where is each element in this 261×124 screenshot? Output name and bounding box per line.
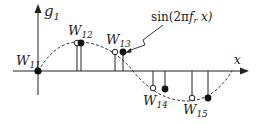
- point-w13: [112, 49, 126, 56]
- x-axis-label: x: [234, 53, 241, 67]
- label-w15: W15: [183, 102, 208, 119]
- label-w11: W11: [16, 53, 41, 70]
- y-axis: [35, 4, 42, 95]
- label-w12: W12: [68, 23, 93, 40]
- point-w12: [74, 40, 84, 47]
- y-axis-label: g1: [44, 2, 60, 22]
- y-axis-arrow-icon: [35, 4, 42, 13]
- point-w14: [150, 85, 168, 92]
- label-w13: W13: [106, 32, 131, 49]
- point-w15: [189, 95, 211, 102]
- sine-sampling-diagram: g1 x sin(2πfr x) W11 W12 W13 W14 W15: [0, 0, 261, 124]
- x-axis-arrow-icon: [240, 68, 249, 75]
- label-w14: W14: [143, 93, 168, 110]
- curve-function-label: sin(2πfr x): [151, 10, 213, 25]
